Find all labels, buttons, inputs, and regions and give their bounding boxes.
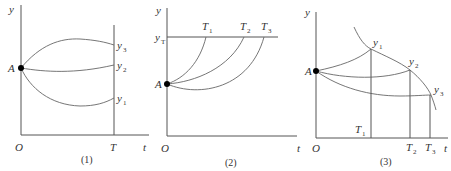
svg-text:T: T bbox=[425, 141, 432, 153]
origin-label: O bbox=[161, 142, 169, 154]
svg-text:2: 2 bbox=[123, 66, 127, 74]
svg-text:y: y bbox=[433, 83, 439, 95]
start-point-dot bbox=[18, 65, 24, 71]
y-axis-label: y bbox=[304, 6, 310, 18]
svg-text:2: 2 bbox=[247, 27, 251, 35]
label-T2: T 2 bbox=[240, 20, 251, 35]
svg-text:3: 3 bbox=[123, 46, 127, 54]
svg-text:y: y bbox=[408, 55, 414, 67]
svg-text:T: T bbox=[161, 38, 166, 46]
origin-label: O bbox=[15, 141, 23, 153]
diagram-figure: y A O T t y 3 y 2 y 1 (1) y y T A bbox=[0, 0, 451, 171]
label-T3: T 3 bbox=[425, 141, 436, 156]
svg-text:1: 1 bbox=[362, 130, 366, 138]
panel-1: y A O T t y 3 y 2 y 1 (1) bbox=[7, 3, 149, 166]
svg-text:T: T bbox=[406, 141, 413, 153]
svg-text:3: 3 bbox=[268, 27, 272, 35]
point-a-label: A bbox=[304, 65, 312, 77]
svg-text:2: 2 bbox=[413, 148, 417, 156]
curve-T1 bbox=[167, 37, 206, 84]
svg-text:T: T bbox=[202, 20, 209, 32]
svg-text:3: 3 bbox=[440, 90, 444, 98]
curve-T2 bbox=[167, 37, 244, 84]
svg-text:2: 2 bbox=[415, 62, 419, 70]
x-axis-label: t bbox=[297, 142, 301, 154]
label-y3: y 3 bbox=[116, 39, 127, 54]
label-y1: y 1 bbox=[116, 92, 127, 107]
point-a-label: A bbox=[154, 78, 162, 90]
origin-label: O bbox=[312, 142, 320, 154]
point-a-label: A bbox=[7, 62, 15, 74]
svg-text:y: y bbox=[116, 92, 122, 104]
curve-y1 bbox=[21, 68, 114, 106]
curve-to-y1 bbox=[316, 49, 371, 71]
svg-text:y: y bbox=[372, 36, 378, 48]
svg-text:T: T bbox=[355, 123, 362, 135]
panel-3: y A O t y 1 y 2 y 3 T 1 T 2 T 3 (3) bbox=[304, 6, 448, 168]
svg-text:3: 3 bbox=[432, 148, 436, 156]
svg-text:1: 1 bbox=[123, 99, 127, 107]
x-axis-label: t bbox=[444, 142, 448, 154]
svg-text:y: y bbox=[154, 31, 160, 43]
svg-text:1: 1 bbox=[379, 43, 383, 51]
label-T1: T 1 bbox=[355, 123, 366, 138]
svg-text:y: y bbox=[116, 39, 122, 51]
caption-1: (1) bbox=[81, 154, 93, 166]
label-y2: y 2 bbox=[408, 55, 419, 70]
label-T1: T 1 bbox=[202, 20, 213, 35]
svg-text:T: T bbox=[240, 20, 247, 32]
label-yT: y T bbox=[154, 31, 166, 46]
y-axis-label: y bbox=[8, 3, 14, 15]
panel-2: y y T A O t T 1 T 2 T 3 (2) bbox=[154, 4, 301, 169]
curve-y3 bbox=[21, 39, 114, 68]
envelope-curve bbox=[354, 27, 436, 110]
start-point-dot bbox=[313, 68, 319, 74]
x-axis-label: t bbox=[143, 141, 147, 153]
label-T2: T 2 bbox=[406, 141, 417, 156]
t-marker-label: T bbox=[110, 141, 117, 153]
svg-text:y: y bbox=[116, 59, 122, 71]
label-y2: y 2 bbox=[116, 59, 127, 74]
caption-2: (2) bbox=[225, 157, 237, 169]
curve-to-y2 bbox=[316, 70, 410, 77]
caption-3: (3) bbox=[380, 156, 392, 168]
label-y3: y 3 bbox=[433, 83, 444, 98]
label-y1: y 1 bbox=[372, 36, 383, 51]
label-T3: T 3 bbox=[261, 20, 272, 35]
y-axis-label: y bbox=[155, 4, 161, 16]
svg-text:T: T bbox=[261, 20, 268, 32]
curve-y2 bbox=[21, 65, 114, 71]
start-point-dot bbox=[164, 81, 170, 87]
svg-text:1: 1 bbox=[209, 27, 213, 35]
